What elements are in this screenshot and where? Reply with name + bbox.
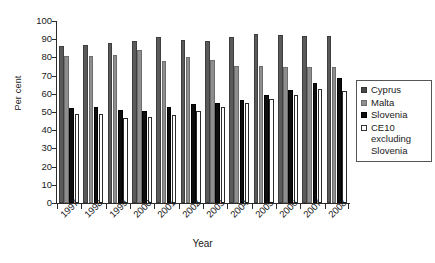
x-tick-mark bbox=[325, 204, 326, 209]
bar bbox=[83, 45, 88, 203]
bar bbox=[172, 115, 177, 203]
bar bbox=[210, 60, 215, 203]
bar bbox=[283, 67, 288, 204]
bar bbox=[313, 83, 318, 203]
bar bbox=[181, 40, 186, 203]
bar bbox=[162, 61, 167, 203]
plot-area: 1009080706050403020100 19971998199920002… bbox=[56, 21, 349, 203]
legend-swatch-icon bbox=[361, 112, 367, 118]
chart-legend: CyprusMaltaSloveniaCE10 excluding Sloven… bbox=[356, 80, 432, 162]
x-tick-mark bbox=[154, 204, 155, 209]
x-tick-mark bbox=[227, 204, 228, 209]
bar bbox=[221, 107, 226, 203]
bar bbox=[167, 107, 172, 203]
bar-group bbox=[106, 21, 130, 203]
bar bbox=[229, 37, 234, 203]
y-tick-label: 70 bbox=[26, 70, 52, 81]
bar bbox=[108, 43, 113, 203]
bar bbox=[123, 118, 128, 203]
legend-item: CE10 excluding Slovenia bbox=[361, 122, 428, 157]
bar-groups bbox=[57, 21, 349, 203]
x-tick-mark bbox=[130, 204, 131, 209]
bar bbox=[94, 107, 99, 203]
legend-item: Malta bbox=[361, 97, 428, 109]
x-tick-mark bbox=[203, 204, 204, 209]
bar-group bbox=[203, 21, 227, 203]
y-tick-label: 40 bbox=[26, 124, 52, 135]
bar bbox=[132, 41, 137, 203]
legend-item: Slovenia bbox=[361, 109, 428, 121]
y-axis-title: Per cent bbox=[13, 53, 23, 133]
bar-group bbox=[276, 21, 300, 203]
bar bbox=[240, 100, 245, 203]
bar bbox=[69, 108, 74, 203]
bar-group bbox=[252, 21, 276, 203]
x-tick-mark bbox=[57, 204, 58, 209]
legend-swatch-icon bbox=[361, 100, 367, 106]
bar bbox=[332, 67, 337, 203]
bar-group bbox=[325, 21, 349, 203]
bar-group bbox=[179, 21, 203, 203]
bar-group bbox=[227, 21, 251, 203]
bar bbox=[318, 89, 323, 203]
legend-item: Cyprus bbox=[361, 84, 428, 96]
bar bbox=[259, 66, 264, 203]
bar bbox=[191, 104, 196, 203]
y-tick-label: 30 bbox=[26, 142, 52, 153]
bar bbox=[294, 95, 299, 203]
y-tick-label: 20 bbox=[26, 161, 52, 172]
bar bbox=[137, 50, 142, 203]
bar-group bbox=[81, 21, 105, 203]
bar bbox=[148, 117, 153, 203]
legend-item-label: Malta bbox=[371, 97, 394, 109]
bar bbox=[64, 56, 69, 203]
y-tick-label: 80 bbox=[26, 51, 52, 62]
bar bbox=[302, 36, 307, 203]
bar-group bbox=[154, 21, 178, 203]
bar bbox=[254, 34, 259, 203]
x-tick-mark bbox=[81, 204, 82, 209]
bar-chart-figure: Per cent 1009080706050403020100 19971998… bbox=[0, 0, 435, 263]
bar bbox=[89, 56, 94, 203]
y-tick-label: 0 bbox=[26, 197, 52, 208]
bar bbox=[327, 36, 332, 203]
legend-item-label: Cyprus bbox=[371, 84, 401, 96]
bar bbox=[196, 111, 201, 203]
y-tick-label: 100 bbox=[26, 15, 52, 26]
bar bbox=[59, 46, 64, 203]
bar-group bbox=[130, 21, 154, 203]
x-tick-mark bbox=[179, 204, 180, 209]
y-tick-label: 50 bbox=[26, 106, 52, 117]
bar bbox=[337, 78, 342, 203]
x-tick-mark bbox=[276, 204, 277, 209]
bar bbox=[245, 103, 250, 203]
bar bbox=[215, 103, 220, 203]
bar bbox=[264, 95, 269, 203]
bar bbox=[205, 41, 210, 203]
bar bbox=[307, 67, 312, 204]
bar bbox=[99, 114, 104, 203]
bar-group bbox=[57, 21, 81, 203]
bar bbox=[156, 37, 161, 203]
bar bbox=[342, 91, 347, 203]
legend-swatch-icon bbox=[361, 87, 367, 93]
legend-item-label: CE10 excluding Slovenia bbox=[371, 122, 428, 157]
bar bbox=[186, 57, 191, 203]
bar bbox=[118, 110, 123, 203]
bar bbox=[278, 35, 283, 203]
bar bbox=[113, 55, 118, 203]
legend-item-label: Slovenia bbox=[371, 109, 407, 121]
bar bbox=[288, 90, 293, 203]
bar bbox=[269, 99, 274, 203]
x-axis-title: Year bbox=[56, 238, 349, 249]
bar-group bbox=[300, 21, 324, 203]
bar bbox=[234, 66, 239, 203]
x-tick-mark bbox=[300, 204, 301, 209]
bar bbox=[142, 111, 147, 203]
y-tick-label: 90 bbox=[26, 33, 52, 44]
y-tick-label: 10 bbox=[26, 179, 52, 190]
y-tick-label: 60 bbox=[26, 88, 52, 99]
legend-swatch-icon bbox=[361, 125, 367, 131]
x-tick-mark bbox=[252, 204, 253, 209]
bar bbox=[75, 114, 80, 203]
